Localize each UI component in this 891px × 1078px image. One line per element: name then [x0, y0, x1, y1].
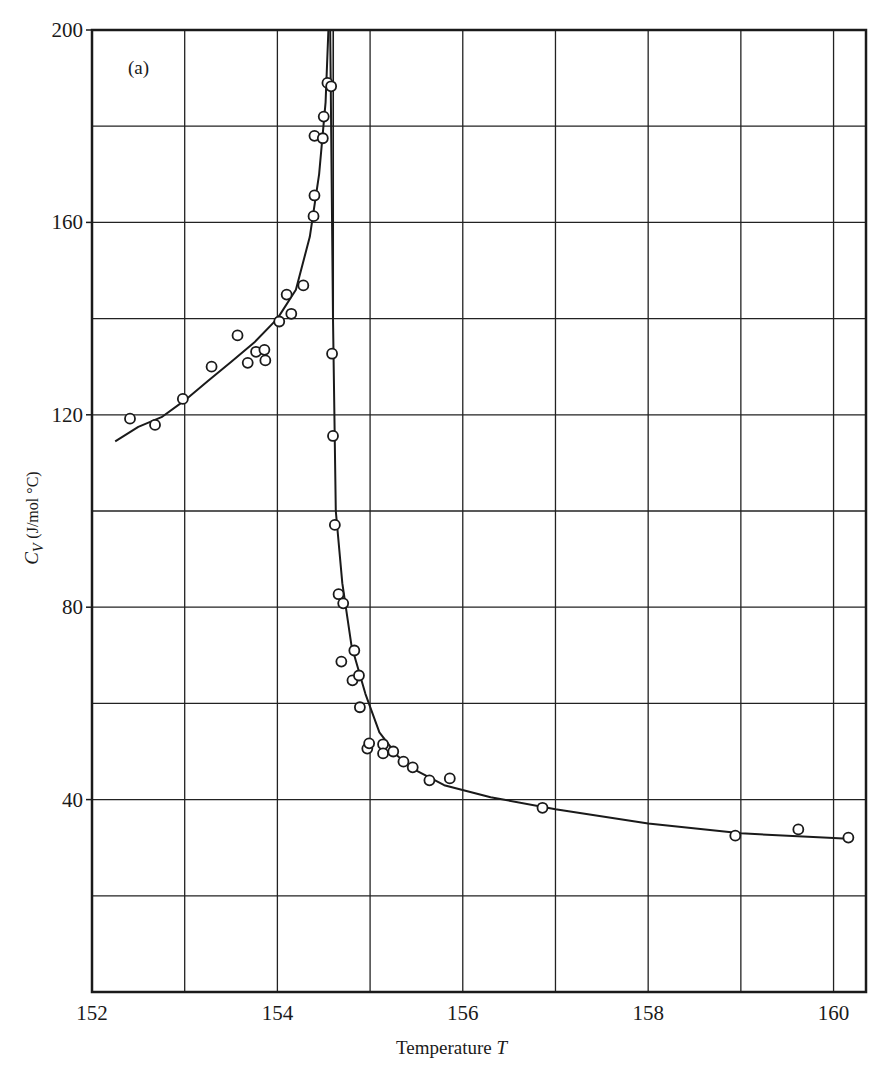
data-point-marker: [326, 81, 336, 91]
data-point-marker: [330, 520, 340, 530]
data-point-marker: [354, 671, 364, 681]
data-point-marker: [408, 762, 418, 772]
x-axis-title-text: Temperature: [396, 1037, 492, 1058]
y-tick-label: 120: [52, 403, 84, 427]
y-axis-title: CV (J/mol °C): [21, 471, 46, 564]
data-point-marker: [355, 702, 365, 712]
x-axis-ticks: 152154156158160: [76, 1001, 849, 1025]
y-tick-label: 160: [52, 210, 84, 234]
data-point-marker: [207, 362, 217, 372]
data-point-marker: [843, 833, 853, 843]
data-point-marker: [260, 355, 270, 365]
data-point-marker: [282, 290, 292, 300]
x-tick-label: 156: [447, 1001, 479, 1025]
data-point-marker: [338, 598, 348, 608]
data-point-marker: [793, 824, 803, 834]
fit-curve: [115, 30, 328, 441]
data-point-marker: [336, 657, 346, 667]
y-tick-label: 200: [52, 18, 84, 42]
x-axis-variable: T: [496, 1037, 508, 1058]
y-tick-label: 80: [62, 595, 83, 619]
data-point-marker: [243, 358, 253, 368]
data-point-marker: [233, 330, 243, 340]
data-point-marker: [730, 831, 740, 841]
data-point-marker: [286, 309, 296, 319]
data-point-marker: [309, 190, 319, 200]
data-point-marker: [319, 112, 329, 122]
data-point-marker: [327, 349, 337, 359]
data-point-marker: [349, 645, 359, 655]
panel-label: (a): [128, 57, 149, 79]
chart-canvas: 152154156158160 4080120160200 (a) Temper…: [0, 0, 891, 1078]
data-point-marker: [445, 773, 455, 783]
y-axis-variable: C: [21, 552, 42, 565]
data-point-marker: [259, 345, 269, 355]
data-point-marker: [328, 431, 338, 441]
data-point-marker: [537, 803, 547, 813]
x-axis-title: Temperature T: [396, 1037, 508, 1058]
data-point-marker: [364, 738, 374, 748]
data-point-marker: [298, 280, 308, 290]
data-point-marker: [150, 420, 160, 430]
data-point-marker: [309, 211, 319, 221]
data-point-marker: [274, 316, 284, 326]
data-point-marker: [378, 748, 388, 758]
cv-vs-temperature-chart: 152154156158160 4080120160200 (a) Temper…: [0, 0, 891, 1078]
fit-curve: [330, 30, 852, 839]
y-tick-label: 40: [62, 788, 83, 812]
data-point-marker: [125, 414, 135, 424]
data-points: [125, 78, 853, 843]
data-point-marker: [178, 394, 188, 404]
x-tick-label: 160: [818, 1001, 850, 1025]
fitted-curves: [115, 30, 852, 839]
x-tick-label: 158: [632, 1001, 664, 1025]
grid-lines: [92, 30, 866, 992]
x-tick-label: 154: [262, 1001, 294, 1025]
data-point-marker: [398, 757, 408, 767]
data-point-marker: [424, 775, 434, 785]
x-tick-label: 152: [76, 1001, 108, 1025]
y-axis-ticks: 4080120160200: [52, 18, 93, 812]
data-point-marker: [318, 133, 328, 143]
data-point-marker: [388, 747, 398, 757]
y-axis-units: (J/mol °C): [24, 471, 42, 538]
